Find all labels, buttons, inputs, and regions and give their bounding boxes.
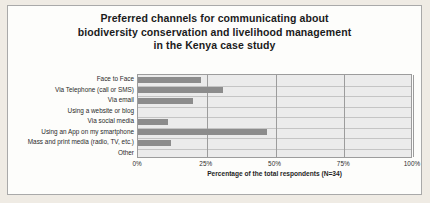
category-label: Using a website or blog	[68, 106, 134, 117]
bar	[138, 129, 267, 135]
bar-row	[138, 86, 413, 97]
category-label: Via social media	[88, 116, 134, 127]
category-label: Mass and print media (radio, TV, etc.)	[28, 137, 134, 148]
x-tick-label: 0%	[132, 159, 141, 168]
bar	[138, 98, 193, 104]
plot-wrapper: Face to FaceVia Telephone (call or SMS)V…	[8, 6, 423, 196]
category-label: Face to Face	[97, 74, 134, 85]
bar-row	[138, 107, 413, 118]
bar	[138, 77, 201, 83]
x-tick-label: 75%	[337, 159, 350, 168]
plot-area	[137, 74, 412, 158]
x-axis-label: Percentage of the total respondents (N=3…	[137, 170, 412, 177]
chart-figure: Preferred channels for communicating abo…	[7, 5, 422, 195]
bar-row	[138, 75, 413, 86]
gridline-vertical	[413, 75, 414, 157]
y-axis-category-labels: Face to FaceVia Telephone (call or SMS)V…	[8, 74, 136, 158]
bar-row	[138, 138, 413, 149]
bar-row	[138, 96, 413, 107]
x-axis-tick-labels: 0%25%50%75%100%	[137, 159, 412, 169]
category-label: Other	[118, 148, 134, 159]
bar	[138, 140, 171, 146]
bar	[138, 87, 223, 93]
category-label: Via email	[108, 95, 134, 106]
x-tick-label: 100%	[404, 159, 420, 168]
category-label: Via Telephone (call or SMS)	[55, 85, 134, 96]
x-tick-label: 25%	[199, 159, 212, 168]
category-label: Using an App on my smartphone	[41, 127, 134, 138]
bar-row	[138, 149, 413, 160]
bar	[138, 119, 168, 125]
bar-row	[138, 128, 413, 139]
x-tick-label: 50%	[268, 159, 281, 168]
bar-row	[138, 117, 413, 128]
